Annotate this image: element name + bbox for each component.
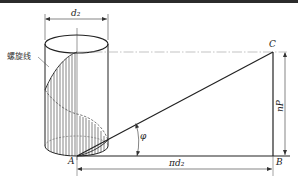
pi-d2-label: πd₂: [168, 158, 185, 168]
helix-development-diagram: d₂: [0, 0, 298, 186]
helix-label: 螺旋线: [7, 51, 31, 61]
pi-d2-dimension: πd₂: [78, 158, 272, 169]
point-C-label: C: [269, 39, 276, 49]
nP-label: nP: [275, 99, 285, 112]
helix-back-curve: [45, 90, 108, 140]
nP-dimension: nP: [275, 53, 285, 155]
helix-hatching: [45, 44, 108, 156]
helix-callout: 螺旋线: [7, 51, 49, 67]
point-B-label: B: [275, 157, 283, 167]
hypotenuse-AC: [77, 52, 273, 156]
cylinder: [45, 28, 108, 160]
point-A-label: A: [67, 156, 75, 166]
phi-label: φ: [140, 131, 147, 141]
d2-label: d₂: [71, 8, 81, 18]
phi-angle: φ: [136, 124, 147, 156]
